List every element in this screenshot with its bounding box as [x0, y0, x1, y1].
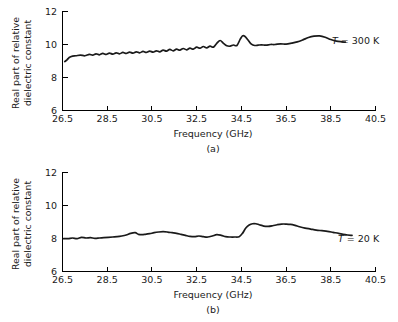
axis-lines-a — [63, 11, 376, 111]
y-tick-label-10-a: 10 — [45, 39, 57, 50]
x-tick-label-5-b: 36.5 — [276, 274, 297, 285]
x-tick-label-1-b: 28.5 — [97, 274, 118, 285]
x-tick-label-4-a: 34.5 — [231, 113, 252, 124]
x-tick-label-3-a: 32.5 — [186, 113, 207, 124]
series-label-value-b: = 20 K — [347, 233, 380, 244]
y-axis-label-line1-a: Real part of relative — [10, 17, 21, 109]
y-tick-label-8-a: 8 — [51, 72, 57, 83]
x-tick-label-7-b: 40.5 — [365, 274, 386, 285]
y-tick-label-10-b: 10 — [45, 200, 57, 211]
y-axis-label-a: Real part of relative dielectric constan… — [10, 17, 33, 109]
chart-svg-b: Real part of relative dielectric constan… — [0, 161, 398, 322]
x-tick-label-6-b: 38.5 — [320, 274, 341, 285]
panel-caption-a: (a) — [206, 143, 219, 154]
y-ticks-b — [63, 173, 68, 272]
x-tick-label-4-b: 34.5 — [231, 274, 252, 285]
series-label-a: T= 300 K — [332, 35, 380, 46]
data-curve-b — [64, 224, 352, 239]
x-ticks-b — [63, 267, 376, 272]
x-tick-labels-b: 26.5 28.5 30.5 32.5 34.5 36.5 38.5 40.5 — [52, 274, 386, 285]
x-tick-label-7-a: 40.5 — [365, 113, 386, 124]
x-ticks-a — [63, 106, 376, 111]
chart-panel-a: Real part of relative dielectric constan… — [0, 0, 398, 161]
x-tick-label-3-b: 32.5 — [186, 274, 207, 285]
x-axis-title-b: Frequency (GHz) — [173, 289, 252, 300]
x-tick-label-5-a: 36.5 — [276, 113, 297, 124]
x-tick-labels-a: 26.5 28.5 30.5 32.5 34.5 36.5 38.5 40.5 — [52, 113, 386, 124]
y-tick-label-8-b: 8 — [51, 233, 57, 244]
y-tick-label-12-b: 12 — [45, 167, 57, 178]
y-axis-label-line1-b: Real part of relative — [10, 178, 21, 270]
y-axis-label-b: Real part of relative dielectric constan… — [10, 178, 33, 270]
x-tick-label-6-a: 38.5 — [320, 113, 341, 124]
figure-container: Real part of relative dielectric constan… — [0, 0, 398, 322]
y-tick-labels-b: 12 10 8 6 — [45, 167, 57, 277]
x-tick-label-1-a: 28.5 — [97, 113, 118, 124]
series-label-var-a: T — [332, 35, 339, 46]
y-tick-labels-a: 12 10 8 6 — [45, 6, 57, 116]
x-tick-label-2-a: 30.5 — [141, 113, 162, 124]
data-curve-a — [65, 36, 346, 62]
x-tick-label-2-b: 30.5 — [141, 274, 162, 285]
x-axis-title-a: Frequency (GHz) — [173, 128, 252, 139]
y-axis-label-line2-a: dielectric constant — [22, 20, 33, 107]
x-tick-label-0-b: 26.5 — [52, 274, 73, 285]
x-tick-label-0-a: 26.5 — [52, 113, 73, 124]
series-label-value-a: = 300 K — [341, 35, 380, 46]
chart-panel-b: Real part of relative dielectric constan… — [0, 161, 398, 322]
panel-caption-b: (b) — [206, 304, 219, 315]
y-axis-label-line2-b: dielectric constant — [22, 181, 33, 268]
y-tick-label-12-a: 12 — [45, 6, 57, 17]
chart-svg-a: Real part of relative dielectric constan… — [0, 0, 398, 161]
axis-lines-b — [63, 172, 376, 272]
